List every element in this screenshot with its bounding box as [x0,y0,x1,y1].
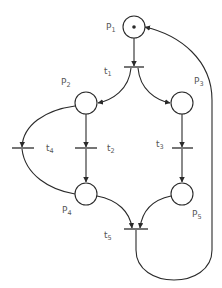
label-t2: t2 [107,143,115,155]
arc-t4-p4 [22,149,75,194]
label-p5: P5 [192,209,202,221]
petri-net-diagram: P1 P2 P3 P4 P5 t1 t2 t3 t4 t5 [0,0,222,288]
place-p2[interactable] [75,92,97,114]
label-t1: t1 [104,66,112,78]
label-p2: P2 [61,77,71,89]
arc-t1-p2 [98,68,131,103]
arc-p4-t5 [97,196,132,228]
label-p4: P4 [62,205,72,217]
place-p4[interactable] [75,183,97,205]
arc-p2-t4 [22,106,75,147]
label-p1: P1 [106,22,116,34]
labels: P1 P2 P3 P4 P5 t1 t2 t3 t4 t5 [46,22,204,242]
transitions [12,67,193,229]
arc-t5-p1 [136,27,212,280]
place-p5[interactable] [171,183,193,205]
label-t3: t3 [156,139,164,151]
token-icon [132,25,136,29]
place-p3[interactable] [171,92,193,114]
label-t5: t5 [104,230,112,242]
arc-p5-t5 [140,196,171,228]
label-t4: t4 [46,143,54,155]
arc-t1-p3 [138,68,170,103]
label-p3: P3 [194,76,204,88]
